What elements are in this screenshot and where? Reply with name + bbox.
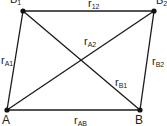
edge-label-rB1: rB1: [115, 77, 127, 89]
diagram-canvas: [0, 0, 167, 126]
point-label-B2: B2: [156, 0, 167, 7]
point-label-A: A: [2, 114, 10, 126]
point-label-B1: B1: [10, 0, 21, 6]
point-B: [137, 107, 142, 112]
edge-label-rA1: rA1: [1, 55, 13, 67]
edge-label-r12: r12: [88, 0, 99, 10]
point-B1: [20, 8, 25, 13]
point-A: [4, 107, 9, 112]
point-label-B: B: [135, 114, 143, 126]
edge-label-rB2: rB2: [152, 56, 164, 68]
edge-label-rA2: rA2: [84, 36, 96, 48]
edge-rB1: [23, 11, 140, 110]
edge-label-rAB: rAB: [74, 115, 87, 126]
point-B2: [151, 8, 156, 13]
